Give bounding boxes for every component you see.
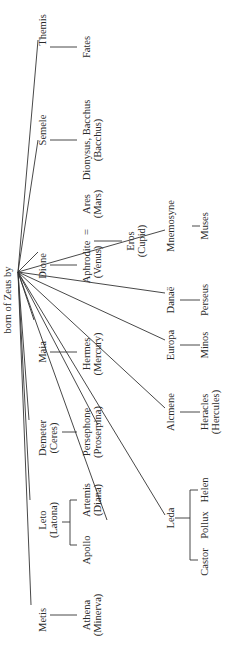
child-castor: Castor [199, 548, 210, 576]
child-hermes: Hermes [81, 338, 92, 371]
child-athena-roman: (Minerva) [92, 593, 104, 636]
child-dionysus: Dionysus, Bacchus [81, 100, 92, 181]
child-ares-roman: (Mars) [92, 189, 104, 218]
child-pollux: Pollux [199, 511, 210, 539]
child-aphrodite: Aphrodite [81, 240, 92, 283]
diagram-title: born of Zeus by [2, 266, 13, 334]
child-dionysus-roman: (Bacchus) [92, 118, 104, 161]
child-aphrodite-roman: (Venus) [92, 245, 104, 278]
mother-demeter: Demeter [37, 419, 48, 456]
mother-themis: Themis [37, 14, 48, 46]
mother-mnemosyne: Mnemosyne [165, 200, 176, 252]
mother-europa: Europa [165, 330, 176, 361]
mother-alcmene: Alcmene [165, 393, 176, 431]
child-eros-roman: (Cupid) [136, 224, 148, 257]
child-heracles: Heracles [199, 394, 210, 431]
child-minos: Minos [199, 332, 210, 359]
child-heracles-roman: (Hercules) [210, 389, 222, 434]
child-hermes-roman: (Mercury) [92, 332, 104, 376]
child-eros: Eros [125, 231, 136, 250]
child-ares: Ares [81, 194, 92, 214]
mother-danae: Danaë [165, 286, 176, 313]
mother-maia: Maia [37, 341, 48, 363]
child-perseus: Perseus [199, 284, 210, 316]
child-fates: Fates [81, 36, 92, 58]
child-artemis-roman: (Diana) [92, 483, 104, 516]
mother-metis: Metis [37, 608, 48, 632]
child-muses: Muses [199, 212, 210, 239]
child-athena: Athena [81, 600, 92, 631]
marriage-sign: = [81, 229, 92, 235]
mother-leto: Leto [37, 510, 48, 529]
mother-demeter-roman: (Ceres) [48, 422, 60, 453]
mother-leda: Leda [165, 507, 176, 528]
child-artemis: Artemis [81, 483, 92, 517]
zeus-offspring-diagram: born of Zeus by Themis Semele Dione Maia… [0, 0, 229, 653]
child-persephone: Persephone [81, 407, 92, 456]
mother-leto-roman: (Latona) [48, 501, 60, 538]
child-connectors [50, 47, 200, 615]
child-persephone-roman: (Proserpina) [92, 406, 104, 458]
mother-semele: Semele [37, 114, 48, 145]
mother-dione: Dione [37, 253, 48, 279]
child-helen: Helen [199, 477, 210, 503]
child-apollo: Apollo [81, 535, 92, 564]
